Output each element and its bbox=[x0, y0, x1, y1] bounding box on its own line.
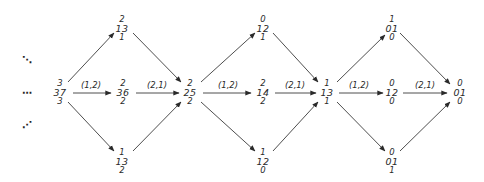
edge-label-1: (1,2) bbox=[81, 80, 101, 90]
node-bot-value: 1 bbox=[380, 166, 404, 175]
edge-d1-bot-to-join1 bbox=[133, 102, 181, 151]
edge-d2-bot-to-join2 bbox=[273, 102, 318, 151]
node-d3-top: 1 01 0 bbox=[380, 15, 404, 42]
node-bot-value: 3 bbox=[48, 97, 72, 106]
edge-start-to-d1-bot bbox=[68, 102, 114, 151]
edge-label-6: (2,1) bbox=[415, 80, 435, 90]
node-d1-bot: 1 13 2 bbox=[110, 148, 134, 175]
node-d3-bot: 0 01 1 bbox=[380, 148, 404, 175]
diamond-lattice-diagram: ⋱ ⋯ ⋰ 3 37 3 2 13 1 2 36 2 1 13 2 2 25 2… bbox=[0, 0, 484, 182]
node-bot-value: 0 bbox=[380, 97, 404, 106]
edge-join2-to-d3-bot bbox=[337, 102, 385, 151]
node-d2-mid: 2 14 2 bbox=[251, 79, 275, 106]
edge-label-3: (1,2) bbox=[218, 80, 238, 90]
node-join1: 2 25 2 bbox=[178, 79, 202, 106]
node-bot-value: 1 bbox=[251, 33, 275, 42]
node-join2: 1 13 1 bbox=[315, 79, 339, 106]
node-d2-top: 0 12 1 bbox=[251, 15, 275, 42]
edge-label-2: (2,1) bbox=[147, 80, 167, 90]
edge-join2-to-d3-top bbox=[337, 35, 385, 82]
node-bot-value: 0 bbox=[448, 97, 472, 106]
edge-d1-top-to-join1 bbox=[133, 33, 181, 82]
edge-join1-to-d2-top bbox=[201, 33, 255, 82]
node-end: 0 01 0 bbox=[448, 79, 472, 106]
edge-d3-top-to-end bbox=[400, 33, 450, 84]
ellipsis-lower: ⋰ bbox=[22, 120, 32, 130]
node-d1-top: 2 13 1 bbox=[110, 15, 134, 42]
node-bot-value: 2 bbox=[251, 97, 275, 106]
edge-label-4: (2,1) bbox=[285, 80, 305, 90]
ellipsis-upper: ⋱ bbox=[22, 55, 32, 65]
node-d1-mid: 2 36 2 bbox=[111, 79, 135, 106]
edge-d2-top-to-join2 bbox=[273, 33, 318, 82]
ellipsis-middle: ⋯ bbox=[22, 88, 32, 98]
edges-layer bbox=[0, 0, 484, 182]
edge-join1-to-d2-bot bbox=[201, 102, 255, 151]
node-bot-value: 2 bbox=[178, 97, 202, 106]
node-bot-value: 2 bbox=[110, 166, 134, 175]
node-start: 3 37 3 bbox=[48, 79, 72, 106]
node-d2-bot: 1 12 0 bbox=[251, 148, 275, 175]
edge-d3-bot-to-end bbox=[400, 102, 450, 151]
node-d3-mid: 0 12 0 bbox=[380, 79, 404, 106]
edge-label-5: (1,2) bbox=[349, 80, 369, 90]
node-bot-value: 2 bbox=[111, 97, 135, 106]
node-bot-value: 1 bbox=[110, 33, 134, 42]
node-bot-value: 0 bbox=[251, 166, 275, 175]
edge-start-to-d1-top bbox=[68, 33, 114, 82]
node-bot-value: 1 bbox=[315, 97, 339, 106]
node-bot-value: 0 bbox=[380, 33, 404, 42]
